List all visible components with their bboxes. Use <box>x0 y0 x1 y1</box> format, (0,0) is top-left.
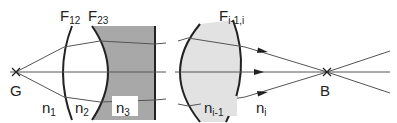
label-F23: F23 <box>88 7 109 26</box>
label-n2: n2 <box>75 99 89 118</box>
label-F-i-1-i: Fi-1,i <box>219 7 244 26</box>
object-label: G <box>10 82 22 99</box>
image-label: B <box>320 82 330 99</box>
surface-F12 <box>63 26 72 120</box>
optical-diagram: G B F12 F23 Fi-1,i n1 n2 n3 ni-1 ni <box>0 0 397 123</box>
label-n1: n1 <box>42 99 56 118</box>
label-n-i: ni <box>256 99 267 118</box>
label-F12: F12 <box>60 7 81 26</box>
